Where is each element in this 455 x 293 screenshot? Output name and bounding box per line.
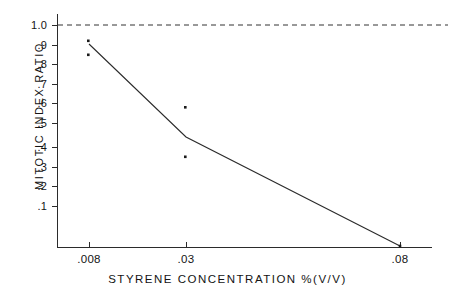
chart-figure: 1.0 .9 .8 .7 .6 .5 .4 .3 .2 .1 .008 .03 … <box>0 0 455 293</box>
data-point <box>87 40 90 43</box>
data-point <box>184 156 187 159</box>
data-point <box>399 245 402 248</box>
series-layer <box>0 0 455 293</box>
trend-line <box>89 44 400 246</box>
data-point <box>184 106 187 109</box>
data-point <box>87 54 90 57</box>
